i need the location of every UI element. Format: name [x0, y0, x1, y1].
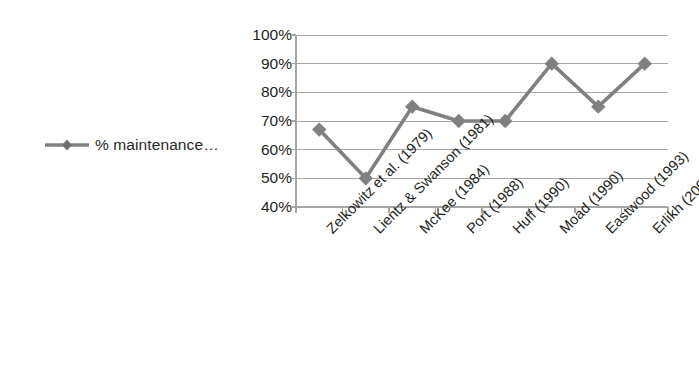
x-axis-tick-label: Huff (1990): [510, 225, 521, 236]
x-axis-tick-label: Lientz & Swanson (1981): [370, 225, 381, 236]
chart-canvas: % maintenance… 100%90%80%70%60%50%40% Ze…: [0, 0, 699, 388]
x-axis-tick-label: Moad (1990): [556, 225, 567, 236]
x-axis-tick-labels: Zelkowitz et al. (1979)Lientz & Swanson …: [0, 0, 699, 388]
x-axis-tick-label: Eastwood (1993): [603, 225, 614, 236]
x-axis-tick-label: Port (1988): [463, 225, 474, 236]
x-axis-tick-label: Erlikh (2000): [649, 225, 660, 236]
x-axis-tick-label: McKee (1984): [417, 225, 428, 236]
x-axis-tick-label: Zelkowitz et al. (1979): [324, 225, 335, 236]
